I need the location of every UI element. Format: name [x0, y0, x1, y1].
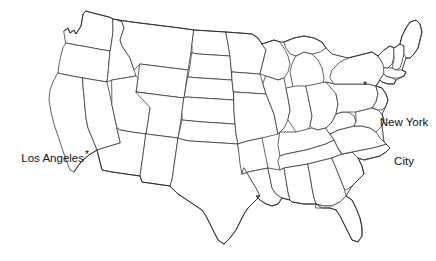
- state-south-dakota: [188, 53, 232, 80]
- state-new-york: [330, 52, 386, 86]
- new-york-city-label-line-2: City: [374, 155, 434, 168]
- new-york-city-label: New York City: [374, 90, 434, 194]
- los-angeles-label: Los Angeles: [14, 152, 84, 165]
- state-iowa: [232, 72, 266, 94]
- new-york-city-label-line-1: New York: [374, 116, 434, 129]
- us-map-svg: [0, 0, 436, 261]
- state-nebraska: [184, 77, 234, 100]
- state-boundaries: [49, 11, 422, 244]
- new-york-city-marker: *: [363, 81, 367, 91]
- state-minnesota: [226, 32, 266, 74]
- us-map-figure: * Los Angeles * New York City: [0, 0, 436, 261]
- los-angeles-marker: *: [85, 150, 89, 160]
- state-north-dakota: [192, 30, 230, 56]
- state-kansas: [182, 97, 235, 124]
